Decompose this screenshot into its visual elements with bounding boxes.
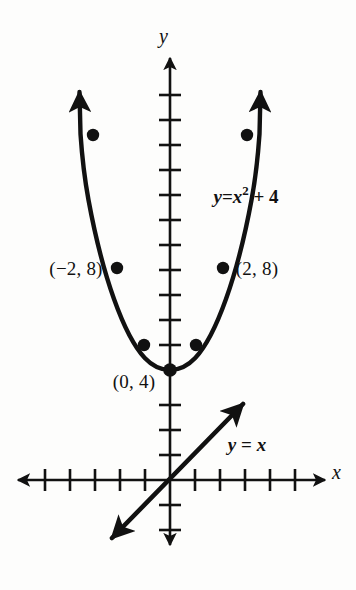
line-eq-lhs: y (228, 434, 236, 455)
x-axis-label: x (332, 462, 341, 482)
line-eq-equals: = (241, 434, 252, 455)
point-label-right: (2, 8) (236, 259, 278, 278)
point-label-left: (−2, 8) (49, 259, 102, 278)
point-label-vertex: (0, 4) (113, 372, 155, 391)
data-point (111, 262, 123, 274)
parabola-eq-equals: = (222, 186, 233, 207)
data-point (87, 129, 99, 141)
coordinate-plane-svg (0, 0, 356, 590)
data-point (190, 339, 202, 351)
data-point (241, 129, 253, 141)
data-point (138, 339, 150, 351)
line-equation-label: y = x (228, 435, 266, 454)
parabola-eq-plus: + (253, 186, 264, 207)
y-axis-label: y (159, 26, 168, 46)
parabola-eq-variable: x (233, 186, 243, 207)
data-point (163, 363, 177, 377)
parabola-equation-label: y=x2 + 4 (213, 187, 278, 206)
graph-figure: y x y=x2 + 4 y = x (−2, 8) (2, 8) (0, 4) (0, 0, 356, 590)
identity-line-segment (112, 404, 243, 538)
parabola-eq-exponent: 2 (242, 183, 248, 198)
parabola-eq-constant: 4 (269, 186, 279, 207)
identity-line (112, 404, 243, 538)
data-point (217, 262, 229, 274)
line-eq-rhs: x (257, 434, 267, 455)
